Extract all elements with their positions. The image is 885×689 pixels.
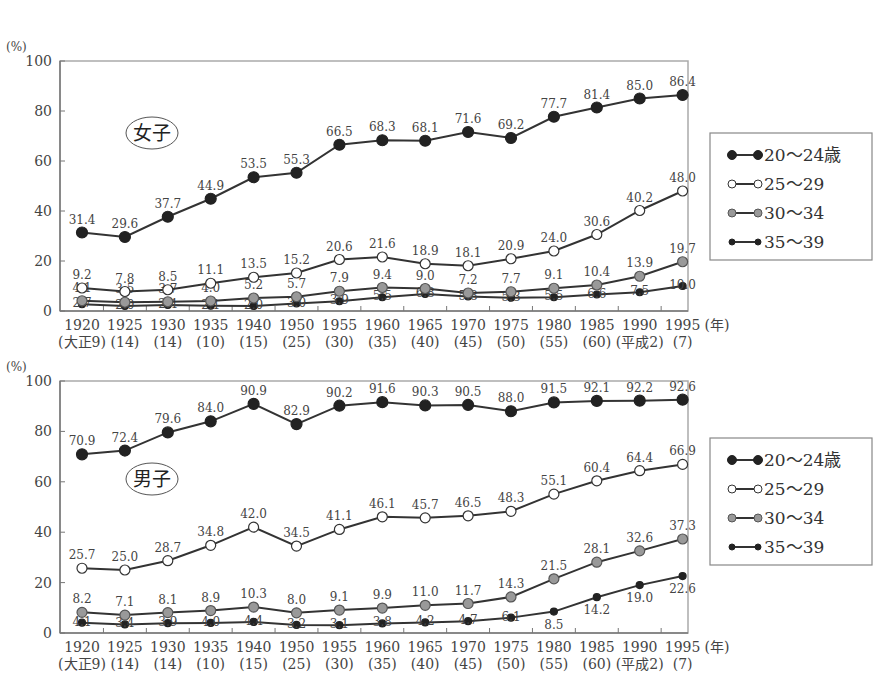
data-point <box>678 534 688 544</box>
legend-label: 35〜39 <box>764 232 824 252</box>
x-tick-label: 1920 <box>64 317 100 333</box>
data-point <box>249 522 259 532</box>
legend-marker-icon <box>754 209 762 217</box>
x-tick-label: 1925 <box>107 317 143 333</box>
x-tick-label: 1930 <box>150 639 186 655</box>
data-point <box>77 227 88 238</box>
legend-label: 25〜29 <box>764 174 824 194</box>
data-label: 44.9 <box>197 179 224 193</box>
data-point <box>549 283 559 293</box>
data-point <box>635 271 645 281</box>
data-label: 92.1 <box>583 381 610 395</box>
data-point <box>162 211 173 222</box>
data-label: 68.3 <box>369 120 396 134</box>
legend-marker-icon <box>729 239 735 245</box>
x-era-label: (15) <box>239 656 268 672</box>
x-axis-unit: (年) <box>705 639 730 655</box>
data-label: 7.2 <box>459 273 478 287</box>
data-label: 55.3 <box>283 153 310 167</box>
data-point <box>205 416 216 427</box>
data-point <box>377 252 387 262</box>
y-tick-label: 20 <box>34 253 52 269</box>
legend-marker-icon <box>755 239 761 245</box>
data-point <box>334 139 345 150</box>
data-point <box>377 283 387 293</box>
x-era-label: (平成2) <box>616 656 664 672</box>
data-label: 48.3 <box>498 491 525 505</box>
data-point <box>120 565 130 575</box>
data-label: 91.6 <box>369 382 396 396</box>
x-era-label: (15) <box>239 334 268 350</box>
x-era-label: (25) <box>282 656 311 672</box>
data-point <box>334 286 344 296</box>
data-label: 13.5 <box>240 257 267 271</box>
data-point <box>506 287 516 297</box>
data-label: 29.6 <box>112 217 139 231</box>
data-point <box>592 476 602 486</box>
data-point <box>334 400 345 411</box>
data-label: 4.2 <box>416 614 435 628</box>
data-point <box>248 172 259 183</box>
legend-label: 20〜24歳 <box>764 450 841 470</box>
x-era-label: (30) <box>325 334 354 350</box>
data-point <box>206 296 216 306</box>
data-point <box>506 254 516 264</box>
x-tick-label: 1990 <box>622 317 658 333</box>
data-point <box>291 419 302 430</box>
data-label: 5.7 <box>287 277 306 291</box>
data-label: 34.8 <box>197 525 224 539</box>
x-tick-label: 1940 <box>236 317 272 333</box>
data-label: 25.7 <box>69 548 96 562</box>
data-point <box>677 90 688 101</box>
data-point <box>206 540 216 550</box>
data-label: 30.6 <box>583 215 610 229</box>
data-label: 14.2 <box>583 603 610 617</box>
data-point <box>635 206 645 216</box>
data-label: 11.7 <box>455 584 482 598</box>
data-label: 79.6 <box>154 412 181 426</box>
panel-title: 男子 <box>133 468 171 490</box>
data-label: 4.4 <box>244 614 263 628</box>
data-label: 91.5 <box>541 382 568 396</box>
x-era-label: (55) <box>540 656 569 672</box>
y-tick-label: 80 <box>34 103 52 119</box>
data-label: 18.9 <box>412 244 439 258</box>
x-era-label: (60) <box>582 334 611 350</box>
data-label: 18.1 <box>455 246 482 260</box>
data-point <box>506 133 517 144</box>
data-point <box>463 288 473 298</box>
y-tick-label: 100 <box>25 373 52 389</box>
data-point <box>77 449 88 460</box>
data-label: 41.1 <box>326 509 353 523</box>
y-tick-label: 20 <box>34 575 52 591</box>
x-era-label: (大正9) <box>58 656 106 672</box>
x-tick-label: 1980 <box>536 639 572 655</box>
y-axis-unit: (%) <box>6 360 27 374</box>
data-point <box>206 278 216 288</box>
data-label: 11.1 <box>197 263 224 277</box>
legend-marker-icon <box>728 514 736 522</box>
data-label: 8.1 <box>158 593 177 607</box>
data-point <box>463 511 473 521</box>
legend-marker-icon <box>728 151 737 160</box>
x-era-label: (7) <box>673 334 693 350</box>
data-point <box>420 600 430 610</box>
x-tick-label: 1990 <box>622 639 658 655</box>
data-label: 28.1 <box>583 542 610 556</box>
data-label: 22.6 <box>669 582 696 596</box>
data-label: 46.1 <box>369 497 396 511</box>
x-era-label: (14) <box>111 656 140 672</box>
y-tick-label: 0 <box>43 625 52 641</box>
data-point <box>420 259 430 269</box>
data-label: 9.1 <box>544 268 563 282</box>
legend-marker-icon <box>754 456 763 465</box>
data-label: 90.3 <box>412 385 439 399</box>
data-label: 7.9 <box>330 271 349 285</box>
data-label: 90.2 <box>326 386 353 400</box>
legend-marker-icon <box>728 485 736 493</box>
x-tick-label: 1965 <box>407 639 443 655</box>
y-tick-label: 60 <box>34 153 52 169</box>
data-point <box>592 230 602 240</box>
data-label: 8.9 <box>201 591 220 605</box>
legend-marker-icon <box>754 514 762 522</box>
